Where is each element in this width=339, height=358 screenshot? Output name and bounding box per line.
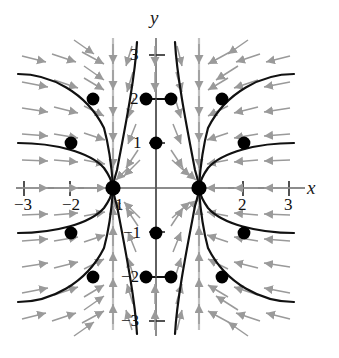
x-tick-label-3: 3 (284, 196, 293, 213)
y-tick-label-minus2: −2 (121, 268, 139, 285)
trajectory-upper-right-outer (199, 74, 294, 186)
y-tick-label-minus1: −1 (123, 224, 141, 241)
point-marker (65, 227, 78, 240)
point-marker (216, 271, 229, 284)
trajectory-upper-left-inner (18, 143, 113, 187)
phase-portrait-figure: x y −3 −2 1 2 3 3 2 1 −1 −2 −3 (0, 0, 339, 358)
x-tick-label-minus2: −2 (62, 196, 80, 213)
trajectory-lower-right-inner (199, 189, 294, 233)
trajectory-upper-left-outer (18, 74, 113, 186)
point-marker (238, 227, 251, 240)
x-tick-label-minus3: −3 (14, 196, 32, 213)
point-marker (216, 93, 229, 106)
point-marker (87, 271, 100, 284)
phase-portrait-canvas (0, 0, 339, 358)
point-marker (165, 271, 178, 284)
x-tick-label-2: 2 (238, 196, 247, 213)
point-marker (140, 271, 153, 284)
point-marker (150, 227, 163, 240)
point-marker (165, 93, 178, 106)
equilibrium-point-right (191, 180, 206, 195)
point-marker (238, 137, 251, 150)
point-marker (87, 93, 100, 106)
point-marker (65, 137, 78, 150)
y-tick-label-3: 3 (130, 46, 139, 63)
y-axis-label: y (150, 8, 158, 27)
y-tick-label-minus3: −3 (121, 312, 139, 329)
x-axis-label: x (307, 178, 315, 197)
y-tick-label-2: 2 (130, 90, 139, 107)
y-tick-label-1: 1 (133, 134, 142, 151)
equilibrium-point-left (105, 180, 120, 195)
trajectory-lower-right-outer (199, 190, 294, 302)
trajectory-upper-right-inner (199, 143, 294, 187)
point-marker (150, 137, 163, 150)
point-marker (140, 93, 153, 106)
x-tick-label-minus1: 1 (115, 196, 124, 213)
